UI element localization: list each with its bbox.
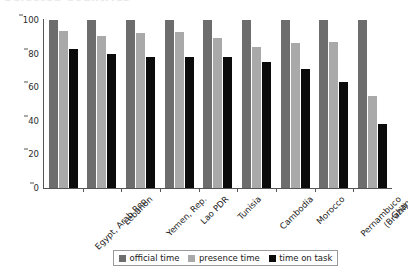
bar-official-time xyxy=(281,20,290,188)
bar-official-time xyxy=(358,20,367,188)
bar-group xyxy=(83,20,122,188)
legend-label: presence time xyxy=(199,253,260,263)
bar-official-time xyxy=(126,20,135,188)
x-axis-label: Tunisia xyxy=(235,194,263,222)
legend-item: time on task xyxy=(269,253,333,263)
bar-time-on-task xyxy=(301,69,310,188)
bar-presence-time xyxy=(368,96,377,188)
bar-time-on-task xyxy=(223,57,232,188)
x-axis-line xyxy=(43,188,392,189)
bar-group xyxy=(121,20,160,188)
presence-swatch-icon xyxy=(188,255,195,262)
bar-presence-time xyxy=(213,38,222,188)
plot-area: 020406080100 xyxy=(44,20,392,188)
y-tick-label: 20 xyxy=(28,149,44,159)
x-axis-label-line: Cambodia xyxy=(278,194,315,231)
bar-official-time xyxy=(49,20,58,188)
legend-item: presence time xyxy=(188,253,259,263)
bar-group xyxy=(199,20,238,188)
bar-time-on-task xyxy=(146,57,155,188)
bar-official-time xyxy=(165,20,174,188)
y-tick-label: 40 xyxy=(28,116,44,126)
bar-group xyxy=(160,20,199,188)
bar-time-on-task xyxy=(107,54,116,188)
bar-time-on-task xyxy=(185,57,194,188)
x-tick-mark xyxy=(276,188,277,192)
x-axis-label-line: Morocco xyxy=(314,194,346,226)
bar-presence-time xyxy=(252,47,261,188)
x-axis-label-line: Tunisia xyxy=(235,194,263,222)
x-tick-mark xyxy=(237,188,238,192)
bar-group xyxy=(353,20,392,188)
y-tick-label: 80 xyxy=(28,49,44,59)
bar-official-time xyxy=(203,20,212,188)
bar-official-time xyxy=(319,20,328,188)
y-tick-label: 0 xyxy=(34,183,44,193)
bar-time-on-task xyxy=(69,49,78,188)
legend-label: time on task xyxy=(279,253,332,263)
x-tick-mark xyxy=(83,188,84,192)
bar-group xyxy=(276,20,315,188)
x-tick-mark xyxy=(315,188,316,192)
bar-presence-time xyxy=(291,43,300,188)
bar-time-on-task xyxy=(262,62,271,188)
official-swatch-icon xyxy=(119,255,126,262)
bar-presence-time xyxy=(97,36,106,188)
bar-presence-time xyxy=(175,32,184,188)
task-swatch-icon xyxy=(269,255,276,262)
x-tick-mark xyxy=(353,188,354,192)
chart-legend: official timepresence timetime on task xyxy=(113,250,338,266)
bar-presence-time xyxy=(136,33,145,188)
x-axis-label: Morocco xyxy=(314,194,346,226)
y-tick-label: 60 xyxy=(28,82,44,92)
chart-figure: Selected Countries percentage of time at… xyxy=(0,0,408,273)
x-tick-mark xyxy=(160,188,161,192)
x-tick-mark xyxy=(199,188,200,192)
legend-label: official time xyxy=(130,253,180,263)
x-axis-label: Cambodia xyxy=(278,194,315,231)
legend-item: official time xyxy=(119,253,179,263)
bar-presence-time xyxy=(59,31,68,188)
y-tick-mark xyxy=(24,82,28,83)
y-tick-mark xyxy=(24,115,28,116)
y-tick-mark xyxy=(30,183,34,184)
bar-time-on-task xyxy=(378,124,387,188)
bar-official-time xyxy=(242,20,251,188)
bar-presence-time xyxy=(329,42,338,188)
y-tick-mark xyxy=(24,149,28,150)
bar-group xyxy=(237,20,276,188)
y-tick-mark xyxy=(19,15,23,16)
bar-group xyxy=(315,20,354,188)
bar-official-time xyxy=(87,20,96,188)
cut-off-heading: Selected Countries xyxy=(4,0,130,4)
y-tick-label: 100 xyxy=(23,15,44,25)
bar-group xyxy=(44,20,83,188)
bar-time-on-task xyxy=(339,82,348,188)
y-tick-mark xyxy=(24,48,28,49)
cut-off-heading-strip: Selected Countries xyxy=(0,0,408,9)
x-tick-mark xyxy=(121,188,122,192)
